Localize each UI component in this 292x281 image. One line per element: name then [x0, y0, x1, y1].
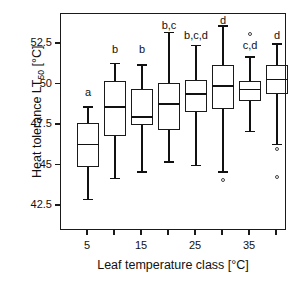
whisker-lower-40 [276, 94, 278, 144]
whisker-lower-10 [114, 136, 116, 178]
whisker-upper-5 [87, 107, 89, 123]
whisker-cap-lower-30 [218, 171, 228, 173]
group-label-35: c,d [225, 40, 275, 51]
y-tick-label-47.5: 47.5 [0, 118, 52, 129]
median-line-25 [185, 93, 207, 95]
whisker-upper-30 [222, 26, 224, 65]
whisker-cap-lower-5 [83, 199, 93, 201]
y-tick-mark-50 [55, 83, 60, 85]
box-25 [185, 80, 207, 112]
plot-frame: abbb,cb,c,ddc,dd [60, 13, 286, 230]
median-line-20 [158, 103, 180, 105]
outlier-40-0 [275, 147, 279, 151]
y-tick-label-52.5: 52.5 [0, 37, 52, 48]
boxplot-figure: Heat tolerance LT50 [°C] Leaf temperatur… [0, 0, 292, 281]
whisker-cap-lower-15 [137, 171, 147, 173]
x-tick-mark-40 [275, 230, 277, 235]
whisker-lower-5 [87, 167, 89, 199]
whisker-cap-lower-25 [191, 165, 201, 167]
whisker-lower-35 [249, 101, 251, 132]
y-tick-label-50: 50 [0, 78, 52, 89]
group-label-25: b,c,d [171, 30, 221, 41]
whisker-upper-25 [195, 46, 197, 80]
x-tick-mark-15 [140, 230, 142, 235]
whisker-cap-upper-5 [83, 106, 93, 108]
whisker-cap-lower-20 [164, 161, 174, 163]
y-tick-label-45: 45 [0, 159, 52, 170]
x-tick-mark-25 [194, 230, 196, 235]
box-10 [104, 81, 126, 136]
whisker-lower-25 [195, 112, 197, 165]
x-tick-label-25: 25 [175, 240, 215, 251]
x-tick-mark-20 [167, 230, 169, 235]
x-tick-mark-30 [221, 230, 223, 235]
group-label-40: d [252, 30, 292, 41]
median-line-15 [131, 116, 153, 118]
x-tick-mark-35 [248, 230, 250, 235]
whisker-cap-upper-35 [245, 56, 255, 58]
y-tick-label-42.5: 42.5 [0, 199, 52, 210]
whisker-cap-upper-40 [272, 43, 282, 45]
y-tick-mark-47.5 [55, 123, 60, 125]
plot-area: abbb,cb,c,ddc,dd [61, 14, 285, 229]
whisker-cap-lower-35 [245, 131, 255, 133]
outlier-30-0 [221, 178, 225, 182]
x-tick-mark-10 [113, 230, 115, 235]
y-tick-mark-42.5 [55, 204, 60, 206]
median-line-35 [239, 89, 261, 91]
y-axis-label-unit: [°C] [30, 46, 44, 70]
x-axis-label: Leaf temperature class [°C] [60, 258, 286, 272]
whisker-upper-40 [276, 44, 278, 65]
box-5 [77, 123, 99, 167]
median-line-30 [212, 85, 234, 87]
whisker-cap-upper-25 [191, 45, 201, 47]
x-tick-label-5: 5 [67, 240, 107, 251]
box-20 [158, 83, 180, 130]
box-35 [239, 81, 261, 100]
outlier-40-1 [275, 175, 279, 179]
whisker-upper-10 [114, 63, 116, 81]
group-label-30: d [198, 15, 248, 26]
whisker-cap-lower-40 [272, 144, 282, 146]
whisker-upper-20 [168, 33, 170, 83]
median-line-5 [77, 144, 99, 146]
median-line-10 [104, 106, 126, 108]
box-15 [131, 89, 153, 125]
whisker-upper-15 [141, 65, 143, 89]
y-tick-mark-52.5 [55, 42, 60, 44]
y-tick-mark-45 [55, 164, 60, 166]
whisker-lower-20 [168, 130, 170, 162]
x-tick-label-15: 15 [121, 240, 161, 251]
whisker-cap-upper-15 [137, 64, 147, 66]
whisker-lower-30 [222, 109, 224, 172]
whisker-cap-lower-10 [110, 178, 120, 180]
whisker-upper-35 [249, 57, 251, 81]
whisker-lower-15 [141, 125, 143, 172]
group-label-15: b [117, 44, 167, 55]
x-tick-mark-5 [86, 230, 88, 235]
box-30 [212, 65, 234, 109]
whisker-cap-upper-10 [110, 63, 120, 65]
median-line-40 [266, 79, 288, 81]
x-tick-label-35: 35 [229, 240, 269, 251]
